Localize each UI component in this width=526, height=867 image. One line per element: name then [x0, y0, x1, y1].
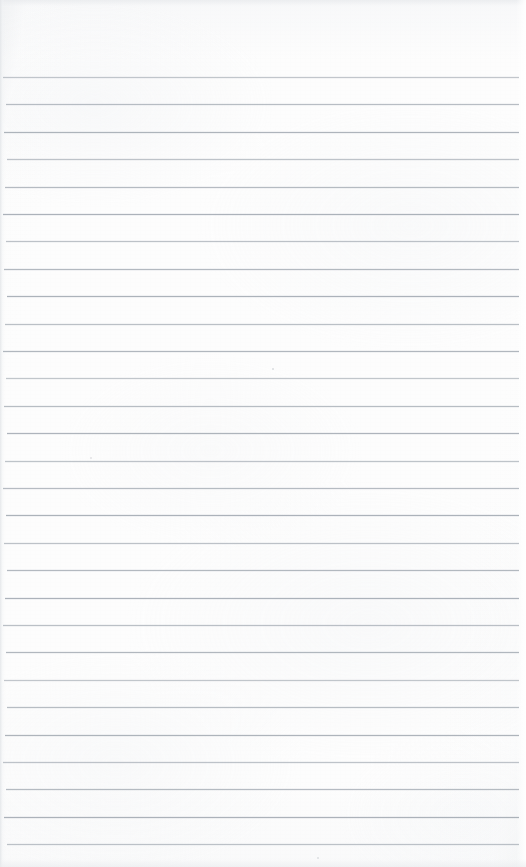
page-content-area	[0, 0, 526, 867]
scanned-page	[0, 0, 526, 867]
